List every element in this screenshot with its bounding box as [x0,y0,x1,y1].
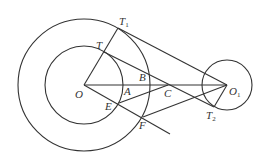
label-o: O [75,88,83,100]
label-b: B [139,71,146,83]
label-e: E [104,100,112,112]
segment-o1-t2 [214,85,227,107]
segment-t1-o1 [118,28,227,85]
label-t: T [96,39,103,51]
label-o1: O1 [229,85,241,99]
label-t1: T1 [119,15,129,29]
label-t2: T2 [206,109,216,123]
label-c: C [164,87,172,99]
label-f: F [138,119,146,131]
geometry-diagram: T1 T B O A C O1 E F T2 [0,0,269,163]
label-a: A [123,85,131,97]
